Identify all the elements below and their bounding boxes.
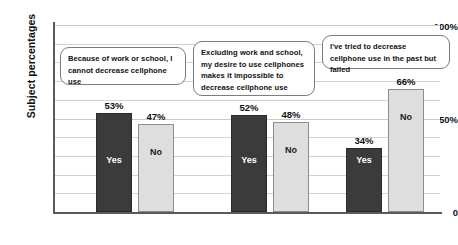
bar-group2-no[interactable]: No: [273, 122, 309, 212]
bar-chart: Subject percentages 100% 50% 0 Yes53%No4…: [0, 0, 458, 245]
bar-answer-label: No: [139, 148, 173, 157]
bar-answer-label: Yes: [347, 156, 381, 165]
bar-answer-label: No: [274, 146, 308, 155]
x-axis-line: [53, 212, 442, 214]
bar-answer-label: Yes: [97, 156, 131, 165]
bar-answer-label: Yes: [232, 156, 266, 165]
bar-value-label-group1-no: 47%: [138, 112, 174, 122]
bar-value-label-group3-no: 66%: [388, 77, 424, 87]
bar-answer-label: No: [389, 113, 423, 122]
bar-group1-yes[interactable]: Yes: [96, 113, 132, 212]
gridline-100: [55, 25, 440, 26]
callout-question-1: Because of work or school, I cannot decr…: [60, 47, 186, 85]
bar-group3-no[interactable]: No: [388, 89, 424, 212]
callout-question-3: I've tried to decrease cellphone use in …: [322, 35, 450, 69]
bar-value-label-group2-yes: 52%: [231, 103, 267, 113]
bar-value-label-group3-yes: 34%: [346, 136, 382, 146]
bar-group2-yes[interactable]: Yes: [231, 115, 267, 212]
y-axis-line: [53, 22, 55, 214]
bar-value-label-group1-yes: 53%: [96, 101, 132, 111]
bar-group3-yes[interactable]: Yes: [346, 148, 382, 212]
bar-group1-no[interactable]: No: [138, 124, 174, 212]
bar-value-label-group2-no: 48%: [273, 110, 309, 120]
callout-question-2: Excluding work and school, my desire to …: [193, 41, 315, 96]
y-axis-title: Subject percentages: [25, 0, 37, 141]
